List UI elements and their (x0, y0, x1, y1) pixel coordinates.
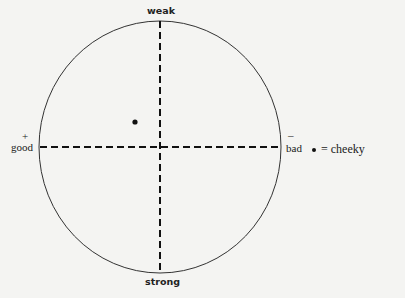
label-strong: strong (145, 277, 180, 287)
legend-text: = cheeky (321, 143, 365, 155)
label-good: good (11, 142, 33, 153)
legend-dot-icon (312, 148, 316, 152)
label-bad: bad (286, 143, 302, 154)
label-weak: weak (147, 6, 175, 16)
minus-sign: – (288, 130, 294, 141)
cheeky-point (132, 119, 137, 124)
